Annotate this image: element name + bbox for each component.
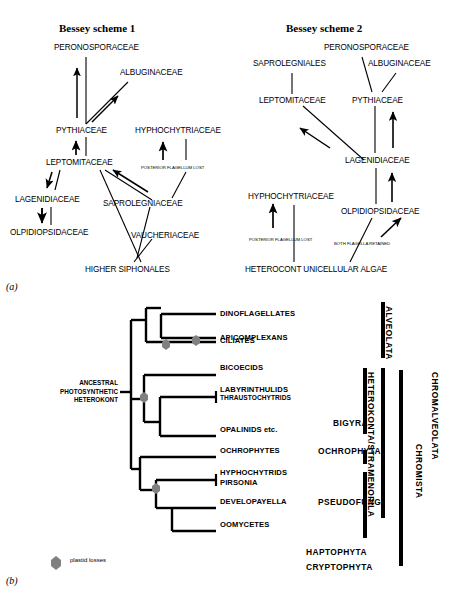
tip-pirsonia: PIRSONIA — [220, 478, 258, 487]
root-line-3: HETEROKONT — [74, 396, 118, 403]
scheme2-node-saprolegniales: SAPROLEGNIALES — [253, 59, 326, 68]
scheme2-node-albuginaceae: ALBUGINACEAE — [368, 59, 431, 68]
cladogram-root-label: ANCESTRAL PHOTOSYNTHETIC HETEROKONT — [26, 379, 118, 405]
scheme1-node-peronosporaceae: PERONOSPORACEAE — [54, 43, 139, 52]
scheme1-node-lagenidiaceae: LAGENIDIACEAE — [15, 195, 80, 204]
scheme2-node-hyphochytriaceae: HYPHOCHYTRIACEAE — [248, 192, 334, 201]
scheme1-node-vaucheriaceae: VAUCHERIACEAE — [131, 231, 199, 240]
legend-plastid-losses-label: plastid losses — [70, 557, 106, 563]
scheme2-annotation-posterior-flagellum-lost: POSTERIOR FLAGELLUM LOST — [249, 237, 312, 242]
scheme2-node-olpidiopsidaceae: OLPIDIOPSIDACEAE — [341, 207, 419, 216]
extra-taxon-cryptophyta: CRYPTOPHYTA — [306, 562, 373, 572]
tip-labyrinthulids: LABYRINTHULIDS — [220, 385, 288, 394]
scheme2-node-leptomitaceae: LEPTOMITACEAE — [259, 96, 326, 105]
scheme2-node-lagenidiaceae: LAGENIDIACEAE — [345, 156, 410, 165]
tip-ciliates: CILIATES — [220, 336, 255, 345]
tip-bicoecids: BICOECIDS — [220, 363, 263, 372]
scheme1-annotation-posterior-flagellum-lost: POSTERIOR FLAGELLUM LOST — [141, 165, 204, 170]
group-chromista: CHROMISTA — [414, 444, 424, 499]
scheme2-annotation-both-flagella-retained: BOTH FLAGELLA RETAINED — [334, 241, 390, 246]
scheme2-title: Bessey scheme 2 — [286, 22, 362, 34]
scheme1-node-saprolegniaceae: SAPROLEGNIACEAE — [103, 199, 183, 208]
panel-b-label: (b) — [6, 575, 18, 586]
group-alveolata: ALVEOLATA — [384, 306, 394, 360]
tip-dinoflagellates: DINOFLAGELLATES — [220, 309, 295, 318]
scheme1-node-higher-siphonales: HIGHER SIPHONALES — [85, 265, 170, 274]
root-line-2: PHOTOSYNTHETIC — [60, 388, 118, 395]
group-heterokonta-stramenopila: HETEROKONTA/STRAMENOPILA — [366, 372, 376, 517]
tip-thraustochytrids: THRAUSTOCHYTRIDS — [220, 394, 291, 401]
group-bigyra: BIGYRA — [333, 418, 368, 428]
plastid-loss-markers — [140, 335, 200, 494]
scheme1-node-albuginaceae: ALBUGINACEAE — [120, 68, 183, 77]
extra-taxon-haptophyta: HAPTOPHYTA — [306, 547, 367, 557]
scheme1-node-olpidiopsidaceae: OLPIDIOPSIDACEAE — [10, 228, 88, 237]
tip-oomycetes: OOMYCETES — [220, 520, 269, 529]
root-line-1: ANCESTRAL — [79, 379, 118, 386]
group-chromalveolata: CHROMALVEOLATA — [430, 372, 440, 460]
scheme2-node-heterocont-unicellular-algae: HETEROCONT UNICELLULAR ALGAE — [245, 265, 387, 274]
scheme1-node-leptomitaceae: LEPTOMITACEAE — [46, 158, 113, 167]
tip-hyphochytrids: HYPHOCHYTRIDS — [220, 468, 287, 477]
tip-opalinids: OPALINIDS etc. — [220, 425, 277, 434]
tip-developayella: DEVELOPAYELLA — [220, 497, 287, 506]
scheme1-node-pythiaceae: PYTHIACEAE — [56, 126, 107, 135]
figure-root: Bessey scheme 1 PERONOSPORACEAE ALBUGINA… — [0, 0, 458, 594]
scheme2-node-peronosporaceae: PERONOSPORACEAE — [324, 43, 409, 52]
scheme2-node-pythiaceae: PYTHIACEAE — [352, 96, 403, 105]
scheme1-node-hyphochytriaceae: HYPHOCHYTRIACEAE — [135, 126, 221, 135]
panel-a-label: (a) — [6, 281, 18, 292]
tip-ochrophytes: OCHROPHYTES — [220, 446, 280, 455]
scheme1-title: Bessey scheme 1 — [59, 22, 135, 34]
